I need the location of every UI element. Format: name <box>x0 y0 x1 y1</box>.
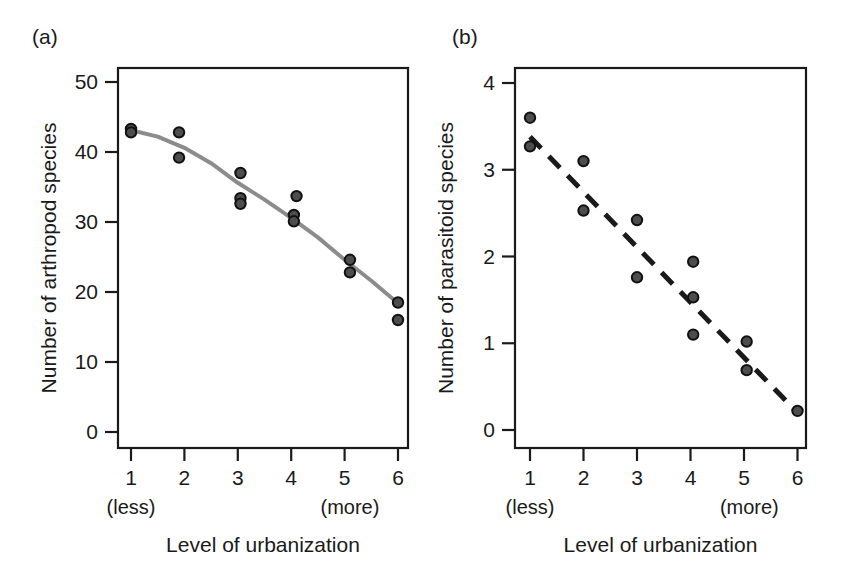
x-axis-title: Level of urbanization <box>166 533 360 556</box>
y-axis-tick-label: 1 <box>483 331 495 354</box>
panel-b-plot: 01234123456(less)(more)Level of urbaniza… <box>422 0 845 579</box>
x-axis-annotation: (less) <box>107 496 156 518</box>
y-axis-tick-label: 10 <box>75 350 98 373</box>
data-point <box>174 127 184 137</box>
data-point <box>345 255 355 265</box>
y-axis-tick-label: 3 <box>483 158 495 181</box>
data-point <box>289 216 299 226</box>
data-point <box>632 215 642 225</box>
y-axis-tick-label: 20 <box>75 280 98 303</box>
x-axis-tick-label: 3 <box>232 466 244 489</box>
y-axis-tick-label: 50 <box>75 70 98 93</box>
data-point <box>393 297 403 307</box>
data-point <box>792 406 802 416</box>
y-axis-title: Number of arthropod species <box>37 123 60 394</box>
y-axis-tick-label: 4 <box>483 71 495 94</box>
data-point <box>578 156 588 166</box>
data-point <box>525 113 535 123</box>
panel-b: (b) 01234123456(less)(more)Level of urba… <box>422 0 845 579</box>
y-axis-tick-label: 40 <box>75 140 98 163</box>
figure-container: (a) 01020304050123456(less)(more)Level o… <box>0 0 845 579</box>
y-axis-tick-label: 0 <box>86 420 98 443</box>
data-point <box>632 272 642 282</box>
plot-frame <box>515 68 806 448</box>
x-axis-tick-label: 6 <box>392 466 404 489</box>
x-axis-annotation: (less) <box>506 496 555 518</box>
y-axis-tick-label: 2 <box>483 245 495 268</box>
data-point <box>235 168 245 178</box>
data-point <box>688 292 698 302</box>
y-axis-title: Number of parasitoid species <box>434 122 457 394</box>
data-point <box>174 152 184 162</box>
x-axis-tick-label: 3 <box>631 466 643 489</box>
data-point <box>345 267 355 277</box>
x-axis-tick-label: 4 <box>685 466 697 489</box>
x-axis-tick-label: 4 <box>285 466 297 489</box>
fit-line <box>131 130 398 303</box>
x-axis-annotation: (more) <box>320 496 379 518</box>
x-axis-tick-label: 2 <box>578 466 590 489</box>
x-axis-tick-label: 1 <box>524 466 536 489</box>
plot-frame <box>118 68 408 448</box>
x-axis-tick-label: 2 <box>179 466 191 489</box>
x-axis-tick-label: 1 <box>125 466 137 489</box>
x-axis-annotation: (more) <box>720 496 779 518</box>
data-point <box>235 199 245 209</box>
data-point <box>741 336 751 346</box>
data-point <box>393 315 403 325</box>
data-point <box>688 257 698 267</box>
panel-a-plot: 01020304050123456(less)(more)Level of ur… <box>0 0 422 579</box>
data-point <box>578 205 588 215</box>
y-axis-tick-label: 0 <box>483 418 495 441</box>
data-point <box>291 191 301 201</box>
fit-line <box>530 137 798 413</box>
x-axis-tick-label: 5 <box>738 466 750 489</box>
x-axis-title: Level of urbanization <box>564 533 758 556</box>
panel-a: (a) 01020304050123456(less)(more)Level o… <box>0 0 422 579</box>
y-axis-tick-label: 30 <box>75 210 98 233</box>
x-axis-tick-label: 6 <box>792 466 804 489</box>
data-point <box>126 127 136 137</box>
data-point <box>525 141 535 151</box>
data-point <box>741 365 751 375</box>
x-axis-tick-label: 5 <box>339 466 351 489</box>
data-point <box>688 329 698 339</box>
